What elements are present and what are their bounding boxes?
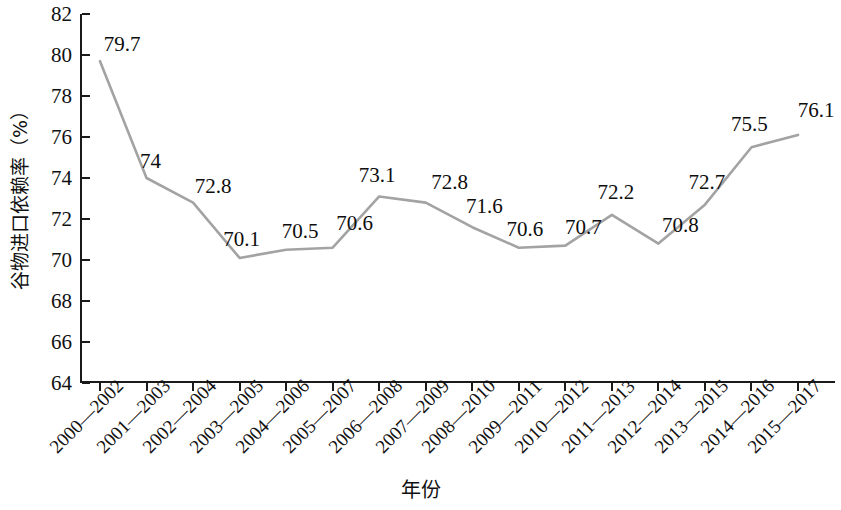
data-point-label: 70.6 <box>506 219 543 240</box>
data-point-label: 70.8 <box>662 215 699 236</box>
x-axis-tick-labels: 2000—20022001—20032002—20042003—20052004… <box>80 385 840 475</box>
y-axis-title: 谷物进口依赖率（%） <box>2 0 36 390</box>
data-point-label: 76.1 <box>798 100 835 121</box>
data-point-label: 79.7 <box>104 34 141 55</box>
data-point-label: 74 <box>140 151 161 172</box>
y-tick-label: 80 <box>51 45 72 66</box>
data-point-label: 72.7 <box>689 172 726 193</box>
y-tick-label: 64 <box>51 373 72 394</box>
x-axis-title: 年份 <box>0 474 841 503</box>
data-series-line <box>80 14 835 383</box>
y-tick-label: 74 <box>51 168 72 189</box>
y-tick-mark <box>82 95 90 97</box>
y-axis-line <box>80 14 82 383</box>
y-tick-label: 76 <box>51 127 72 148</box>
plot-area: 64666870727476788082 79.77472.870.170.57… <box>80 14 835 383</box>
data-point-label: 70.5 <box>282 221 319 242</box>
y-tick-mark <box>82 54 90 56</box>
data-point-label: 72.8 <box>431 172 468 193</box>
y-tick-label: 72 <box>51 209 72 230</box>
data-point-label: 71.6 <box>466 196 503 217</box>
chart-page: 谷物进口依赖率（%） 64666870727476788082 79.77472… <box>0 0 841 510</box>
data-point-label: 73.1 <box>359 165 396 186</box>
y-tick-label: 70 <box>51 250 72 271</box>
y-tick-mark <box>82 218 90 220</box>
y-tick-mark <box>82 177 90 179</box>
data-point-label: 72.8 <box>195 176 232 197</box>
data-point-label: 72.2 <box>597 182 634 203</box>
y-tick-mark <box>82 13 90 15</box>
data-point-label: 70.7 <box>565 217 602 238</box>
y-tick-mark <box>82 136 90 138</box>
data-point-label: 70.6 <box>336 213 373 234</box>
y-tick-label: 68 <box>51 291 72 312</box>
y-tick-label: 82 <box>51 4 72 25</box>
y-tick-mark <box>82 300 90 302</box>
y-tick-label: 66 <box>51 332 72 353</box>
data-point-label: 70.1 <box>223 229 260 250</box>
data-point-label: 75.5 <box>731 114 768 135</box>
y-tick-mark <box>82 382 90 384</box>
y-tick-mark <box>82 259 90 261</box>
y-tick-mark <box>82 341 90 343</box>
y-tick-label: 78 <box>51 86 72 107</box>
y-axis-title-text: 谷物进口依赖率（%） <box>6 100 33 289</box>
